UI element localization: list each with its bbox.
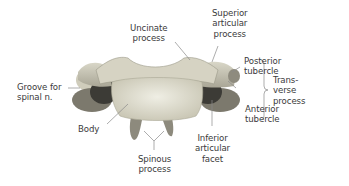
label-inferior-articular-facet: Inferior articular facet: [195, 133, 230, 164]
label-groove-for-spinal-nerve: Groove for spinal n.: [17, 82, 61, 103]
label-posterior-tubercle: Posterior tubercle: [244, 56, 281, 77]
vertebral-body-shape: [111, 78, 202, 121]
label-transverse-process: Trans- verse process: [273, 75, 305, 106]
label-superior-articular-process: Superior articular process: [212, 8, 248, 39]
label-anterior-tubercle: Anterior tubercle: [245, 104, 280, 125]
label-uncinate-process: Uncinate process: [130, 23, 167, 44]
label-body: Body: [78, 124, 99, 134]
label-spinous-process: Spinous process: [138, 154, 171, 175]
